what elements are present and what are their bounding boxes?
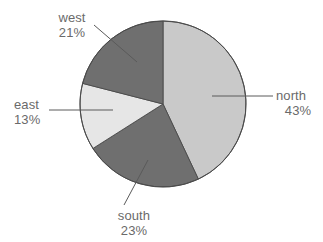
pie-chart: west 21% east 13% north 43% south 23% (0, 0, 323, 242)
pie-label-west-value: 21% (46, 25, 98, 40)
pie-label-east-name: east (14, 97, 60, 112)
pie-label-south-value: 23% (105, 223, 163, 238)
pie-label-north-value: 43% (276, 103, 320, 118)
pie-label-west-name: west (46, 10, 98, 25)
pie-label-east-value: 13% (14, 112, 60, 127)
pie-label-east: east 13% (14, 97, 60, 127)
pie-label-north: north 43% (276, 88, 320, 118)
pie-label-north-name: north (276, 88, 320, 103)
pie-label-west: west 21% (46, 10, 98, 40)
pie-label-south-name: south (105, 208, 163, 223)
pie-label-south: south 23% (105, 208, 163, 238)
